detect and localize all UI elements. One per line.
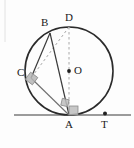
point-label-B: B [41,17,48,28]
point-label-O: O [74,65,82,76]
segment-CA [31,78,69,115]
geometry-figure: B D C O A T [0,0,134,148]
center-point-O-dot [67,69,71,73]
point-label-C: C [17,67,24,78]
point-label-T: T [101,119,108,130]
right-angle-at-A-tangent-marker [69,106,78,115]
right-angle-at-A-inscribed-marker [61,98,69,106]
point-label-A: A [65,119,73,130]
point-label-D: D [65,12,73,23]
point-T-dot [103,112,107,116]
